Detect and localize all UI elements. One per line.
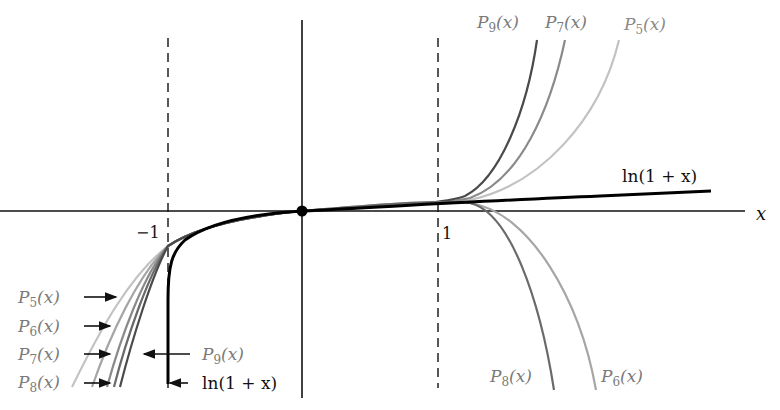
svg-text:P7(x): P7(x) [544, 12, 587, 35]
subscript: 8 [29, 381, 37, 395]
label-p: P [476, 12, 489, 32]
arg: (x) [496, 12, 519, 32]
subscript: 5 [29, 296, 37, 310]
label-p: P [17, 344, 30, 364]
arg: (x) [37, 344, 60, 364]
subscript: 6 [612, 375, 620, 389]
ln-arrow-label: ln(1 + x) [202, 373, 277, 393]
arg: (x) [37, 287, 60, 307]
label-p: P [600, 366, 613, 386]
subscript: 9 [488, 21, 496, 35]
arg: (x) [37, 372, 60, 392]
taylor-polynomial-chart: −1 1 x ln(1 + x) P9(x) P7(x) P5(x) P8(x)… [0, 0, 780, 410]
label-p6-bottom: P6(x) [600, 366, 643, 389]
svg-text:P6(x): P6(x) [17, 316, 60, 339]
label-p9-top: P9(x) [476, 12, 519, 35]
label-p5-left: P5(x) [17, 287, 60, 310]
label-p: P [489, 366, 502, 386]
curve-p7-right [300, 40, 565, 211]
svg-text:P8(x): P8(x) [17, 372, 60, 395]
label-p8-bottom: P8(x) [489, 366, 532, 389]
tick-label-neg1: −1 [136, 223, 160, 242]
svg-text:P5(x): P5(x) [17, 287, 60, 310]
arg: (x) [509, 366, 532, 386]
subscript: 7 [556, 21, 564, 35]
label-p7-top: P7(x) [544, 12, 587, 35]
subscript: 8 [501, 375, 509, 389]
arg: (x) [643, 14, 666, 34]
curve-p5-right [300, 40, 619, 211]
ln-curve-label: ln(1 + x) [622, 166, 697, 186]
label-p: P [17, 372, 30, 392]
tick-label-pos1: 1 [442, 224, 452, 243]
subscript: 7 [29, 353, 37, 367]
svg-text:P7(x): P7(x) [17, 344, 60, 367]
curve-ln1px [168, 191, 711, 384]
curve-p6-left [92, 211, 302, 387]
arg: (x) [37, 316, 60, 336]
label-p7-left: P7(x) [17, 344, 60, 367]
arg: (x) [221, 344, 244, 364]
x-axis-label: x [756, 203, 766, 224]
label-p: P [17, 287, 30, 307]
label-p9-left: P9(x) [201, 344, 244, 367]
origin-point [297, 206, 308, 217]
svg-text:P6(x): P6(x) [600, 366, 643, 389]
svg-text:P5(x): P5(x) [623, 14, 666, 37]
subscript: 9 [213, 353, 221, 367]
label-p: P [544, 12, 557, 32]
label-p8-left: P8(x) [17, 372, 60, 395]
subscript: 6 [29, 325, 37, 339]
curve-p8-right [300, 202, 554, 390]
label-p: P [17, 316, 30, 336]
label-p6-left: P6(x) [17, 316, 60, 339]
svg-text:P8(x): P8(x) [489, 366, 532, 389]
arg: (x) [620, 366, 643, 386]
subscript: 5 [635, 23, 643, 37]
label-p5-top: P5(x) [623, 14, 666, 37]
label-p: P [201, 344, 214, 364]
arg: (x) [564, 12, 587, 32]
label-p: P [623, 14, 636, 34]
svg-text:P9(x): P9(x) [201, 344, 244, 367]
curve-p9-right [300, 40, 537, 211]
svg-text:P9(x): P9(x) [476, 12, 519, 35]
